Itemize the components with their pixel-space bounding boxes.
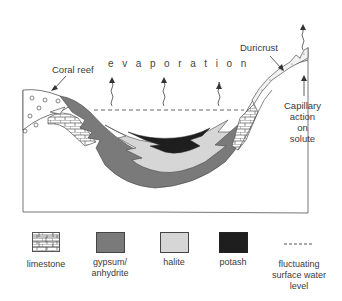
duricrust bbox=[252, 48, 308, 104]
halite-swatch bbox=[160, 232, 189, 253]
coral-reef-label: Coral reef bbox=[52, 64, 94, 75]
legend-gypsum: gypsum/ anhydrite bbox=[82, 232, 138, 279]
arrowheads bbox=[109, 24, 306, 89]
limestone-swatch-icon bbox=[32, 232, 60, 252]
duricrust-label: Duricrust bbox=[240, 42, 278, 53]
legend-limestone: limestone bbox=[18, 232, 74, 270]
duricrust-pointer bbox=[270, 56, 281, 68]
capillary-label: Capillary action on solute bbox=[284, 100, 321, 144]
legend-halite: halite bbox=[146, 232, 202, 268]
evaporation-label: evaporation bbox=[108, 58, 255, 69]
gypsum-swatch bbox=[96, 232, 125, 253]
dashed-line-icon bbox=[284, 232, 314, 252]
coral-reef-pointer bbox=[55, 76, 66, 88]
legend-potash: potash bbox=[205, 232, 261, 268]
legend-water-level: fluctuating surface water level bbox=[266, 232, 332, 292]
potash-swatch bbox=[219, 232, 248, 253]
